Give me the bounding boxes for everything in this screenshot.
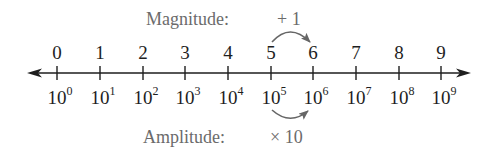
amplitude-operation: × 10 <box>270 127 303 148</box>
tick-label-power: 103 <box>176 87 201 109</box>
tick-label-power: 100 <box>48 87 73 109</box>
tick-label-linear: 4 <box>223 42 233 64</box>
magnitude-amplitude-diagram: Magnitude: + 1 Amplitude: × 10 0 1 2 3 4… <box>0 0 490 156</box>
tick-label-power: 106 <box>304 87 329 109</box>
tick-label-linear: 1 <box>95 42 105 64</box>
tick-label-linear: 5 <box>266 42 276 64</box>
magnitude-label: Magnitude: <box>146 9 229 30</box>
tick-label-power: 108 <box>390 87 415 109</box>
number-line-graphic <box>0 0 490 156</box>
amplitude-label: Amplitude: <box>143 127 225 148</box>
magnitude-operation: + 1 <box>277 9 301 30</box>
tick-label-power: 107 <box>347 87 372 109</box>
tick-label-power: 109 <box>432 87 457 109</box>
amplitude-curved-arrow-icon <box>272 110 308 118</box>
magnitude-curved-arrow-icon <box>272 32 310 42</box>
tick-label-linear: 8 <box>394 42 404 64</box>
tick-label-power: 102 <box>134 87 159 109</box>
tick-label-power: 101 <box>91 87 116 109</box>
tick-label-linear: 2 <box>138 42 148 64</box>
tick-label-linear: 6 <box>308 42 318 64</box>
tick-label-linear: 9 <box>436 42 446 64</box>
tick-label-power: 104 <box>219 87 244 109</box>
tick-label-power: 105 <box>262 87 287 109</box>
tick-label-linear: 3 <box>180 42 190 64</box>
tick-label-linear: 0 <box>52 42 62 64</box>
tick-label-linear: 7 <box>351 42 361 64</box>
